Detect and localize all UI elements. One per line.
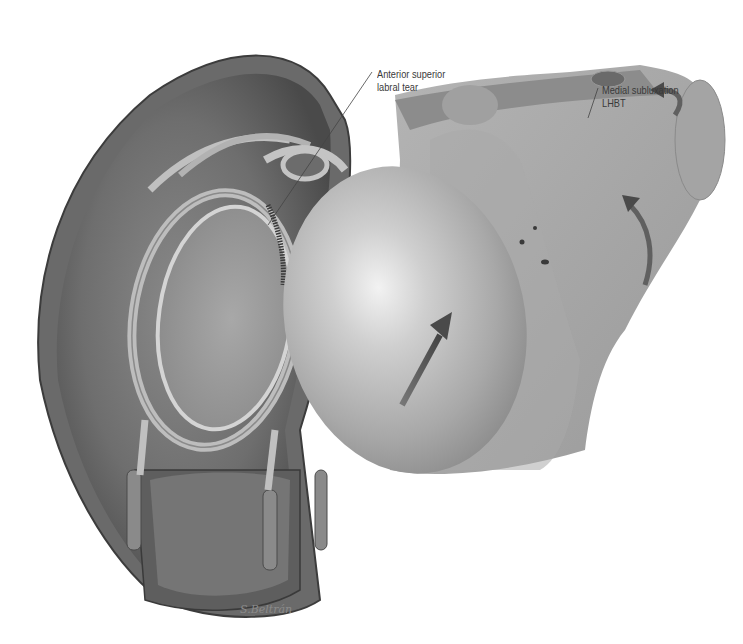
- label-subluxation-line1: Medial subluxation: [602, 84, 679, 97]
- label-subluxation: Medial subluxation LHBT: [602, 84, 679, 110]
- label-labral-tear: Anterior superior labral tear: [377, 68, 445, 94]
- label-labral-tear-line2: labral tear: [377, 81, 445, 94]
- artist-signature: S.Beltrán: [240, 603, 292, 616]
- label-subluxation-line2: LHBT: [602, 97, 679, 110]
- label-labral-tear-line1: Anterior superior: [377, 68, 445, 81]
